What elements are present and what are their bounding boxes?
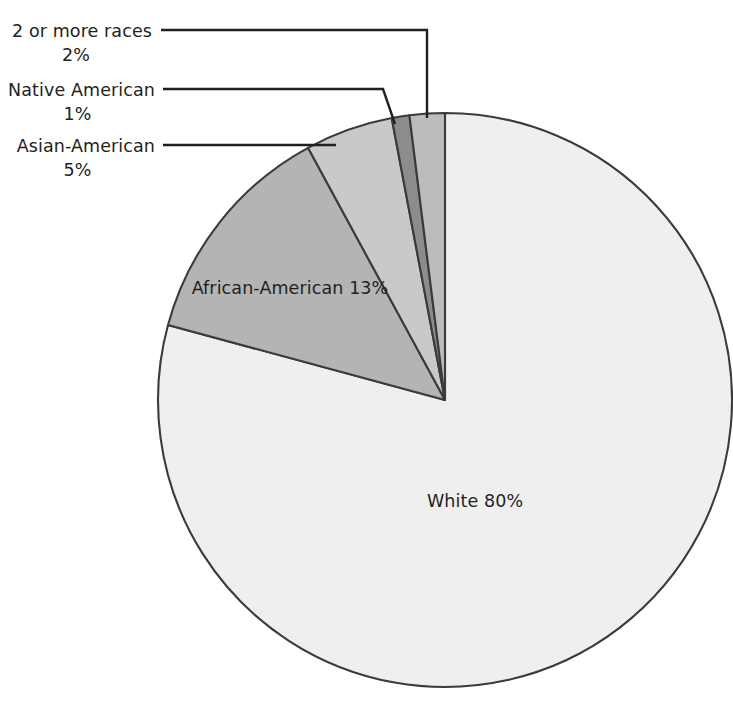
pie-chart: 2 or more races 2% Native American 1% As… [0,0,733,705]
leader-line-two-or-more-races [161,30,427,118]
callout-label-native-american-name: Native American [8,80,155,100]
slice-label-african-american-percent: 13% [349,278,388,298]
leader-line-native-american [163,89,395,124]
slice-label-african-american-name: African-American [192,278,344,298]
callout-label-native-american: Native American 1% [0,78,155,126]
slice-label-white: White 80% [385,489,565,514]
callout-label-two-or-more-races-name: 2 or more races [12,21,152,41]
callout-label-two-or-more-races-percent: 2% [0,43,152,67]
callout-label-native-american-percent: 1% [0,102,155,126]
callout-label-asian-american-percent: 5% [0,158,155,182]
callout-label-two-or-more-races: 2 or more races 2% [0,19,152,67]
slice-label-white-text: White 80% [427,491,523,511]
slice-label-african-american: African-American 13% [190,276,390,301]
callout-label-asian-american: Asian-American 5% [0,134,155,182]
callout-label-asian-american-name: Asian-American [17,136,155,156]
